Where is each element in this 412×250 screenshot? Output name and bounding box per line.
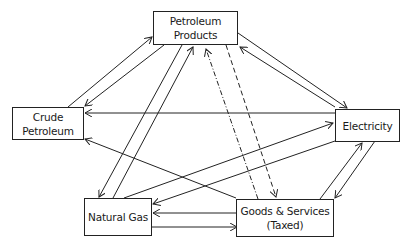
node-goods-services: Goods & Services (Taxed) <box>236 199 334 237</box>
node-label: Petroleum <box>170 14 222 28</box>
node-label: Natural Gas <box>88 210 148 224</box>
node-label: Crude <box>33 110 63 124</box>
edge-electricity-to-goods <box>335 141 375 198</box>
edge-petroleum-products-to-goods <box>226 45 276 197</box>
node-electricity: Electricity <box>335 109 400 142</box>
flow-diagram: Petroleum Products Crude Petroleum Elect… <box>0 0 412 250</box>
edge-electricity-to-petroleum-products <box>240 47 335 107</box>
edge-goods-to-electricity <box>320 143 362 199</box>
edge-goods-to-crude <box>85 139 236 198</box>
edge-petroleum-products-to-electricity <box>238 33 347 108</box>
edge-natural-gas-to-petroleum-products <box>113 47 193 198</box>
edge-natural-gas-to-electricity <box>124 123 333 198</box>
edge-electricity-to-natural-gas <box>153 141 335 204</box>
node-label: Electricity <box>343 119 393 133</box>
node-label: Products <box>174 28 218 42</box>
edge-crude-to-petroleum-products <box>68 37 152 107</box>
node-crude-petroleum: Crude Petroleum <box>12 107 84 140</box>
node-label: Petroleum <box>22 124 74 138</box>
node-label: Goods & Services <box>240 204 329 218</box>
node-natural-gas: Natural Gas <box>84 198 152 236</box>
node-petroleum-products: Petroleum Products <box>153 11 238 45</box>
node-label: (Taxed) <box>267 218 304 232</box>
edge-petroleum-products-to-natural-gas <box>99 45 182 197</box>
edge-petroleum-products-to-crude <box>85 45 164 106</box>
